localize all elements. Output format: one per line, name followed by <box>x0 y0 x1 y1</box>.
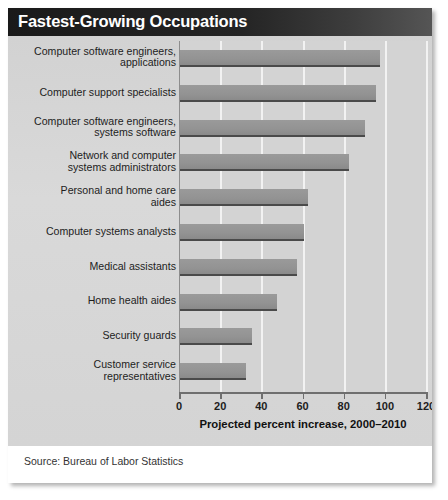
category-label-line: Personal and home care <box>12 185 176 197</box>
chart-card: Fastest-Growing Occupations Computer sof… <box>8 8 432 483</box>
page-title: Fastest-Growing Occupations <box>18 12 247 31</box>
category-label-line: applications <box>12 57 176 69</box>
bar-chart: Computer software engineers,applications… <box>8 36 432 446</box>
category-label: Computer software engineers,systems soft… <box>12 116 176 139</box>
category-label-line: Computer systems analysts <box>12 226 176 238</box>
gridline <box>385 41 387 392</box>
x-axis-title: Projected percent increase, 2000–2010 <box>179 418 427 430</box>
category-label-line: Home health aides <box>12 295 176 307</box>
category-label-line: Security guards <box>12 330 176 342</box>
x-axis-tick-label: 40 <box>241 400 281 412</box>
source-note: Source: Bureau of Labor Statistics <box>24 455 183 467</box>
card-footer: Source: Bureau of Labor Statistics <box>8 446 432 483</box>
bar <box>180 294 277 311</box>
x-axis-tick-label: 60 <box>283 400 323 412</box>
bar <box>180 189 308 206</box>
x-axis-tick-label: 0 <box>159 400 199 412</box>
x-axis-tick-label: 100 <box>365 400 405 412</box>
screenshot-root: Fastest-Growing Occupations Computer sof… <box>0 0 448 500</box>
category-label-line: Customer service <box>12 359 176 371</box>
chart-body: Computer software engineers,applications… <box>8 36 432 446</box>
x-axis-tick <box>220 392 222 399</box>
x-axis-tick <box>303 392 305 399</box>
bar <box>180 259 297 276</box>
category-label: Personal and home careaides <box>12 185 176 208</box>
bar <box>180 50 380 67</box>
card-titlebar: Fastest-Growing Occupations <box>8 8 432 36</box>
x-axis-tick-label: 20 <box>200 400 240 412</box>
category-label-line: systems software <box>12 127 176 139</box>
category-label: Security guards <box>12 330 176 342</box>
x-axis-tick <box>179 392 181 399</box>
bar <box>180 363 246 380</box>
bar <box>180 85 376 102</box>
category-label-line: systems administrators <box>12 162 176 174</box>
x-axis-tick-label: 80 <box>324 400 364 412</box>
x-axis-tick <box>261 392 263 399</box>
category-label-line: aides <box>12 197 176 209</box>
bar <box>180 154 349 171</box>
x-axis-tick <box>344 392 346 399</box>
category-label: Computer support specialists <box>12 87 176 99</box>
category-label-line: Computer support specialists <box>12 87 176 99</box>
category-label: Computer systems analysts <box>12 226 176 238</box>
gridline <box>426 41 428 392</box>
category-label: Medical assistants <box>12 261 176 273</box>
category-label: Customer servicerepresentatives <box>12 359 176 382</box>
category-label: Computer software engineers,applications <box>12 46 176 69</box>
x-axis-tick <box>385 392 387 399</box>
category-label: Home health aides <box>12 295 176 307</box>
bar <box>180 120 365 137</box>
category-label-line: representatives <box>12 371 176 383</box>
x-axis-tick <box>426 392 428 399</box>
plot-area <box>179 41 426 392</box>
category-label: Network and computersystems administrato… <box>12 150 176 173</box>
bar <box>180 224 304 241</box>
category-label-line: Medical assistants <box>12 261 176 273</box>
category-axis-labels: Computer software engineers,applications… <box>12 36 176 392</box>
bar <box>180 328 252 345</box>
x-axis-tick-label: 120 <box>406 400 432 412</box>
